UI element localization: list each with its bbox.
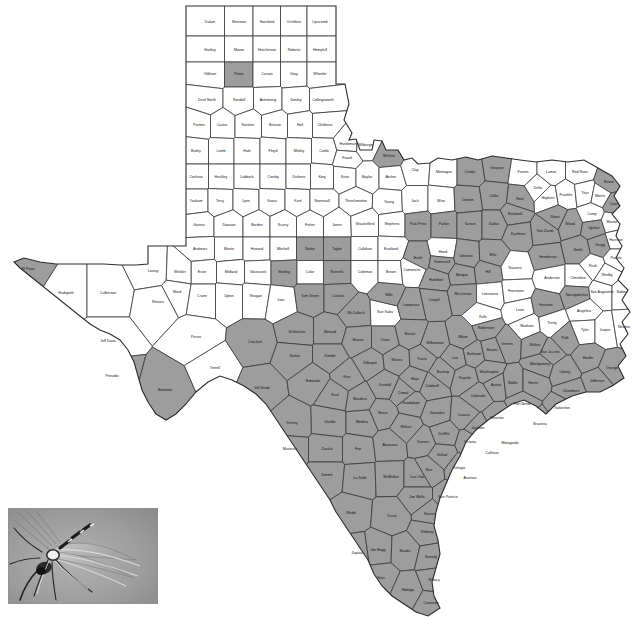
county-parker[interactable] [431, 211, 457, 239]
county-dickens[interactable] [286, 164, 311, 190]
county-marion[interactable] [601, 212, 632, 233]
county-cochran[interactable] [0, 164, 209, 189]
county-grayson[interactable] [458, 0, 536, 183]
county-label-galveston: Galveston [554, 406, 570, 410]
county-hemphill[interactable] [307, 36, 470, 62]
county-carson[interactable] [253, 62, 281, 88]
county-montague[interactable] [429, 25, 458, 188]
county-bowie[interactable] [594, 68, 632, 193]
county-label-presidio: Presidio [106, 374, 119, 378]
mosquito-photo-inset [8, 508, 158, 604]
county-culberson[interactable] [87, 202, 134, 317]
county-moore[interactable] [225, 36, 254, 62]
mosquito-photo-image [8, 508, 158, 604]
county-willacy[interactable] [416, 556, 632, 618]
county-roberts[interactable] [281, 36, 308, 62]
county-glasscock[interactable] [245, 260, 272, 285]
county-dalam[interactable] [0, 0, 225, 36]
county-label-aransas: Aransas [463, 476, 476, 480]
county-label-jeff-davis: Jeff Davis [100, 339, 116, 343]
county-hall[interactable] [288, 111, 313, 139]
county-johnson[interactable] [454, 239, 480, 268]
county-sherman[interactable] [225, 0, 254, 36]
county-wichita[interactable] [373, 4, 462, 167]
county-runnels[interactable] [324, 261, 352, 285]
county-zavala[interactable] [309, 434, 343, 462]
county-king[interactable] [311, 163, 334, 189]
county-galveston[interactable] [542, 391, 632, 527]
county-martin[interactable] [215, 237, 244, 262]
county-label-brazoria: Brazoria [533, 422, 546, 426]
county-gaines[interactable] [147, 212, 214, 239]
county-wise[interactable] [428, 185, 455, 214]
county-callahan[interactable] [351, 237, 378, 261]
county-nolan[interactable] [297, 237, 324, 261]
county-frio[interactable] [343, 433, 376, 464]
county-parmer[interactable] [0, 58, 211, 140]
texas-county-map: DalamShermanHansfordOchiltreeLipscombHar… [0, 0, 632, 627]
county-howard[interactable] [243, 237, 270, 261]
county-motley[interactable] [286, 138, 312, 165]
county-matagorda[interactable] [494, 424, 632, 623]
county-hudspeth[interactable] [0, 218, 87, 384]
county-ector[interactable] [191, 259, 217, 284]
county-jack[interactable] [402, 186, 428, 215]
county-wilbarger[interactable] [357, 59, 422, 161]
county-mitchell[interactable] [270, 237, 297, 261]
county-denton[interactable] [454, 185, 483, 213]
county-lamb[interactable] [209, 138, 235, 164]
county-gray[interactable] [281, 62, 308, 88]
county-cottle[interactable] [312, 138, 337, 165]
county-hale[interactable] [234, 138, 260, 165]
county-aransas[interactable] [455, 461, 608, 595]
county-lipscomb[interactable] [307, 0, 566, 36]
county-taylor[interactable] [324, 237, 352, 261]
county-hartley[interactable] [0, 36, 225, 62]
county-midland[interactable] [217, 259, 245, 285]
county-bailey[interactable] [0, 115, 209, 164]
county-wheeler[interactable] [307, 62, 416, 88]
county-starr[interactable] [305, 563, 400, 627]
county-label-matagorda: Matagorda [501, 441, 518, 445]
county-hutchinson[interactable] [253, 36, 281, 62]
county-donley[interactable] [282, 86, 310, 114]
county-label-wilbarger: Wilbarger [358, 143, 374, 147]
county-label-refugio: Refugio [453, 466, 465, 470]
county-zapata[interactable] [128, 531, 370, 627]
county-hansford[interactable] [253, 0, 281, 36]
county-brazoria[interactable] [519, 404, 632, 603]
county-dimmit[interactable] [246, 462, 345, 551]
county-uvalde[interactable] [311, 405, 346, 437]
county-cooke[interactable] [457, 10, 485, 186]
county-potter[interactable] [225, 62, 254, 87]
county-brown[interactable] [378, 261, 403, 285]
county-palo-pinto[interactable] [405, 211, 431, 241]
county-calhoun[interactable] [475, 435, 539, 516]
county-label-calhoun: Calhoun [485, 451, 498, 455]
county-mcmullen[interactable] [375, 461, 404, 497]
county-red-river[interactable] [566, 0, 632, 184]
county-cameron[interactable] [402, 590, 632, 627]
county-oldham[interactable] [31, 62, 225, 89]
county-ochiltree[interactable] [281, 0, 308, 36]
county-crane[interactable] [186, 284, 215, 319]
county-coke[interactable] [297, 261, 324, 285]
county-hockley[interactable] [209, 164, 235, 190]
county-floyd[interactable] [260, 137, 286, 164]
county-label-zapata: Zapata [351, 551, 362, 555]
county-young[interactable] [372, 189, 402, 215]
county-lubbock[interactable] [234, 164, 260, 190]
county-tarrant[interactable] [457, 211, 482, 242]
county-fannin[interactable] [508, 0, 537, 186]
county-lamar[interactable] [537, 0, 566, 186]
county-sterling[interactable] [271, 260, 297, 287]
county-hood[interactable] [427, 238, 457, 259]
county-briscoe[interactable] [262, 110, 288, 139]
county-stephens[interactable] [379, 211, 406, 237]
county-jefferson[interactable] [581, 367, 632, 462]
county-crosby[interactable] [260, 164, 286, 190]
